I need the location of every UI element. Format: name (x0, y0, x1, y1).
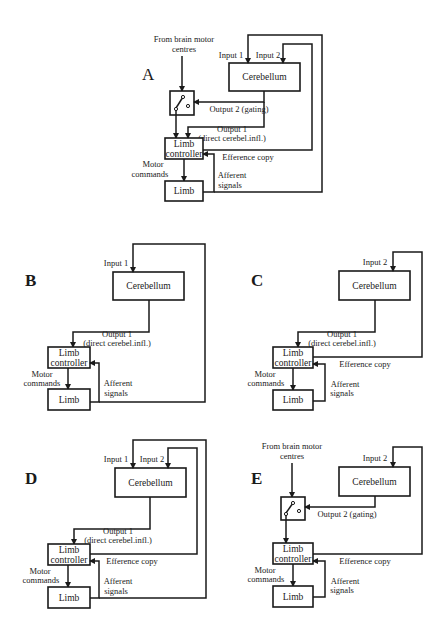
limb-controller-label-line1: Limb (59, 348, 80, 358)
switch-contact-icon (186, 104, 189, 107)
panel-d: D Cerebellum Input 1 Input 2 Output 1 (d… (23, 440, 206, 608)
panel-label-e: E (251, 469, 262, 488)
input2-label: Input 2 (363, 257, 387, 267)
output1-label-line2: (direct cerebel.infl.) (308, 338, 376, 348)
switch-contact-icon (297, 509, 300, 512)
efference-label: Efference copy (222, 152, 274, 162)
afferent-signals-arrow (90, 363, 99, 402)
limb-controller-label-line1: Limb (59, 545, 80, 555)
panel-label-b: B (25, 271, 36, 290)
efference-label: Efference copy (106, 556, 158, 566)
cerebellum-label: Cerebellum (242, 72, 287, 82)
motor-label-line1: Motor (142, 159, 163, 169)
from-brain-label-line1: From brain motor (154, 34, 215, 44)
input2-label: Input 2 (140, 454, 164, 464)
panel-label-d: D (25, 469, 37, 488)
output2-label: Output 2 (gating) (209, 104, 268, 114)
efference-label: Efference copy (339, 556, 391, 566)
gating-switch-box (170, 91, 194, 115)
input1-label: Input 1 (104, 454, 128, 464)
limb-label: Limb (59, 395, 80, 405)
cerebellum-label: Cerebellum (128, 478, 173, 488)
cerebellum-label: Cerebellum (352, 477, 397, 487)
afferent-label-line1: Afferent (104, 576, 133, 586)
panel-c: C Cerebellum Input 2 Output 1 (direct ce… (248, 252, 422, 410)
afferent-label-line2: signals (218, 180, 242, 190)
panel-b: B Cerebellum Input 1 Output 1 (direct ce… (24, 244, 205, 410)
switch-contact-icon (181, 95, 184, 98)
output2-gating-arrow (305, 496, 375, 507)
limb-controller-label-line2: controller (166, 149, 204, 159)
from-brain-label-line1: From brain motor (262, 441, 323, 451)
afferent-label-line1: Afferent (104, 378, 133, 388)
limb-controller-label-line1: Limb (283, 348, 304, 358)
afferent-signals-arrow (203, 154, 214, 192)
output2-label: Output 2 (gating) (317, 509, 376, 519)
limb-controller-label-line2: controller (275, 358, 313, 368)
limb-label: Limb (174, 186, 195, 196)
limb-controller-label-line1: Limb (283, 544, 304, 554)
panel-a: A From brain motor centres Cerebellum In… (132, 34, 322, 201)
input2-label: Input 2 (363, 453, 387, 463)
panel-label-a: A (142, 65, 155, 84)
cerebellum-diagram-figure: A From brain motor centres Cerebellum In… (0, 0, 446, 619)
output1-label-line2: (direct cerebel.infl.) (198, 133, 266, 143)
afferent-label-line2: signals (104, 388, 128, 398)
limb-label: Limb (59, 593, 80, 603)
motor-label-line2: commands (248, 378, 285, 388)
output2-gating-arrow (194, 91, 264, 102)
limb-controller-label-line2: controller (51, 358, 89, 368)
gating-switch-box (281, 497, 305, 520)
limb-controller-label-line2: controller (275, 554, 313, 564)
from-brain-label-line2: centres (280, 451, 304, 461)
input1-label: Input 1 (219, 50, 243, 60)
afferent-signals-arrow (313, 364, 325, 401)
panel-label-c: C (251, 271, 263, 290)
motor-label-line2: commands (23, 575, 60, 585)
output1-label-line2: (direct cerebel.infl.) (84, 535, 152, 545)
input2-label: Input 2 (256, 50, 280, 60)
afferent-signals-arrow (313, 561, 325, 597)
afferent-signals-arrow (90, 561, 99, 598)
afferent-label-line2: signals (104, 586, 128, 596)
input1-label: Input 1 (104, 258, 128, 268)
efference-copy-loop (313, 447, 422, 554)
afferent-label-line1: Afferent (218, 170, 247, 180)
motor-label-line2: commands (24, 378, 61, 388)
cerebellum-label: Cerebellum (126, 281, 171, 291)
efference-label: Efference copy (339, 359, 391, 369)
cerebellum-label: Cerebellum (352, 281, 397, 291)
limb-label: Limb (283, 592, 304, 602)
limb-controller-label-line1: Limb (174, 139, 195, 149)
motor-label-line2: commands (248, 574, 285, 584)
afferent-label-line2: signals (330, 388, 354, 398)
from-brain-label-line2: centres (172, 44, 196, 54)
limb-controller-label-line2: controller (51, 555, 89, 565)
motor-label-line2: commands (132, 169, 169, 179)
panel-e: E From brain motor centres Cerebellum In… (248, 441, 422, 607)
output1-label-line2: (direct cerebel.infl.) (83, 338, 151, 348)
limb-label: Limb (283, 395, 304, 405)
afferent-label-line2: signals (330, 585, 354, 595)
switch-contact-icon (291, 501, 294, 504)
